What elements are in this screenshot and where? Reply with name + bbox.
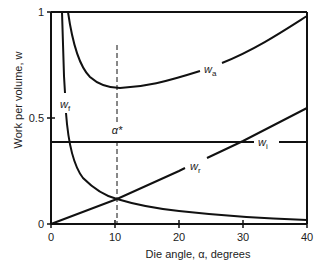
x-tick-labels: 0 10 20 30 40 xyxy=(48,231,313,243)
x-tick-40: 40 xyxy=(301,231,313,243)
alpha-star-label: α* xyxy=(112,124,123,136)
y-tick-0: 0 xyxy=(38,218,44,230)
label-w-f: wf xyxy=(60,98,71,113)
x-tick-20: 20 xyxy=(173,231,185,243)
x-tick-0: 0 xyxy=(48,231,54,243)
x-tick-30: 30 xyxy=(237,231,249,243)
label-w-i: wi xyxy=(258,136,268,151)
y-tick-1: 1 xyxy=(38,6,44,18)
label-w-r: wr xyxy=(190,160,201,175)
series-w-r xyxy=(51,108,307,224)
series-w-f xyxy=(62,12,307,220)
y-tick-labels: 0 0.5 1 xyxy=(29,6,44,230)
x-axis-title: Die angle, α, degrees xyxy=(146,248,251,260)
plot-frame xyxy=(51,12,307,224)
work-vs-die-angle-chart: 0 10 20 30 40 0 0.5 1 Die angle, α, degr… xyxy=(0,0,324,268)
y-tick-0-5: 0.5 xyxy=(29,112,44,124)
y-axis-title: Work per volume, w xyxy=(12,51,24,148)
label-w-a: wa xyxy=(204,63,217,78)
series-w-a xyxy=(68,12,307,88)
x-tick-10: 10 xyxy=(109,231,121,243)
